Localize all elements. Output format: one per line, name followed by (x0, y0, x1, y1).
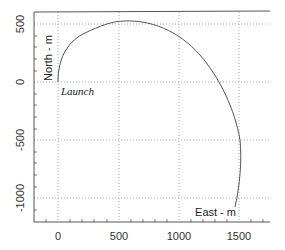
svg-text:0: 0 (55, 230, 61, 242)
x-axis-label: East - m (195, 206, 236, 218)
trajectory-chart: 0 500 1000 1500 500 0 -500 -1000 North -… (0, 0, 285, 250)
svg-text:1500: 1500 (227, 230, 251, 242)
y-tick-labels: 500 0 -500 -1000 (14, 15, 26, 212)
svg-text:500: 500 (14, 15, 26, 33)
x-tick-labels: 0 500 1000 1500 (55, 230, 251, 242)
svg-text:-1000: -1000 (14, 184, 26, 212)
svg-text:500: 500 (110, 230, 128, 242)
trajectory-line (58, 21, 241, 207)
launch-annotation: Launch (60, 85, 95, 97)
svg-text:-500: -500 (14, 129, 26, 151)
y-axis-label: North - m (42, 35, 54, 81)
ticks (34, 36, 263, 222)
svg-text:0: 0 (14, 79, 26, 85)
svg-text:1000: 1000 (167, 230, 191, 242)
